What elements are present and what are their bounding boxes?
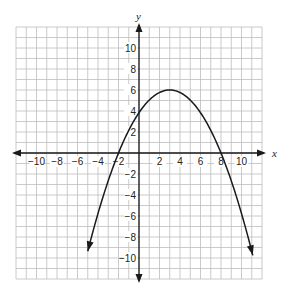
curve-right-arrow-icon — [247, 245, 254, 256]
x-tick-label: −10 — [28, 156, 45, 167]
y-axis-label: y — [135, 10, 141, 22]
x-tick-label: −6 — [72, 156, 84, 167]
x-axis-label: x — [271, 147, 277, 159]
x-axis-left-arrow-icon — [12, 150, 21, 157]
x-tick-label: 2 — [157, 156, 163, 167]
y-axis-up-arrow-icon — [136, 23, 143, 32]
coordinate-plane: −10−8−6−4−2246810108642−2−4−6−8−10 x y — [0, 0, 281, 295]
y-tick-label: 8 — [130, 64, 136, 75]
x-tick-label: 6 — [198, 156, 204, 167]
curve-left-arrow-icon — [87, 241, 94, 252]
x-tick-label: 10 — [236, 156, 248, 167]
y-tick-label: 2 — [130, 127, 136, 138]
y-tick-label: −2 — [125, 169, 137, 180]
parabola-curve — [88, 90, 253, 255]
y-tick-label: 6 — [130, 85, 136, 96]
y-tick-label: 10 — [125, 43, 137, 54]
x-tick-label: −8 — [51, 156, 63, 167]
y-tick-label: −4 — [125, 190, 137, 201]
x-tick-label: 4 — [177, 156, 183, 167]
axes — [12, 23, 266, 283]
y-tick-label: −10 — [119, 253, 136, 264]
curve-arrow-icons — [87, 241, 254, 256]
x-axis-right-arrow-icon — [257, 150, 266, 157]
y-tick-label: −6 — [125, 211, 137, 222]
x-tick-label: −4 — [92, 156, 104, 167]
y-tick-label: −8 — [125, 232, 137, 243]
y-axis-down-arrow-icon — [136, 274, 143, 283]
y-tick-label: 4 — [130, 106, 136, 117]
